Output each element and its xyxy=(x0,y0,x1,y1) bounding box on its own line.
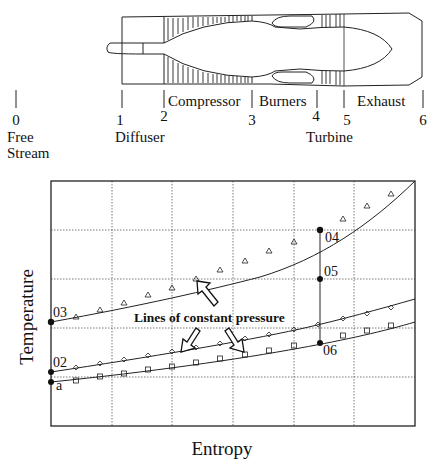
station-number-5: 5 xyxy=(343,112,351,128)
station-name-turbine: Turbine xyxy=(306,129,353,145)
station-number-6: 6 xyxy=(419,112,427,128)
arrow-to-high-pressure-line xyxy=(197,281,218,306)
station-number-2: 2 xyxy=(160,108,168,124)
triangle-markers xyxy=(73,191,394,319)
square-markers xyxy=(74,323,394,383)
turbojet-ts-diagram: Compressor Burners Exhaust 0 1 2 3 4 5 6… xyxy=(0,0,430,467)
section-label-compressor: Compressor xyxy=(168,93,241,109)
label-04: 04 xyxy=(325,230,339,245)
core-body xyxy=(143,21,392,77)
point-05 xyxy=(317,276,323,282)
station-number-0: 0 xyxy=(12,112,20,128)
ts-chart: 03 02 a 04 05 06 Lines of constant press… xyxy=(16,181,415,459)
engine-cross-section xyxy=(107,13,422,86)
label-a: a xyxy=(56,378,63,393)
x-axis-label: Entropy xyxy=(191,438,253,459)
burner-can-bottom xyxy=(272,72,314,83)
section-label-burners: Burners xyxy=(259,93,307,109)
label-02: 02 xyxy=(53,355,67,370)
chart-grid xyxy=(51,181,415,426)
burner-can-top xyxy=(272,16,314,27)
station-number-4: 4 xyxy=(312,108,320,124)
section-label-exhaust: Exhaust xyxy=(357,93,406,109)
station-number-1: 1 xyxy=(116,112,124,128)
station-number-3: 3 xyxy=(248,112,256,128)
state-points xyxy=(48,227,323,385)
station-name-free: Free xyxy=(7,129,34,145)
arrow-to-ambient-pressure-line xyxy=(225,328,244,352)
turbine-blades xyxy=(322,14,340,85)
station-name-diffuser: Diffuser xyxy=(115,129,165,145)
point-a xyxy=(48,379,54,385)
label-03: 03 xyxy=(53,305,67,320)
point-04 xyxy=(317,227,323,233)
y-axis-label: Temperature xyxy=(16,269,37,365)
annotation-lines-of-constant-pressure: Lines of constant pressure xyxy=(134,310,285,325)
label-06: 06 xyxy=(323,343,337,358)
station-name-stream: Stream xyxy=(7,145,50,161)
label-05: 05 xyxy=(324,264,338,279)
inlet-spinner xyxy=(107,43,143,54)
